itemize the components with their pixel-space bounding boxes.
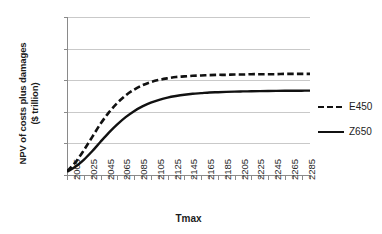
x-tick-mark-2005 (67, 176, 68, 180)
plot-area: 012345 200520252045206520852105212521452… (67, 17, 310, 175)
series-curves (67, 17, 310, 175)
x-tick-mark-2225 (251, 176, 252, 180)
x-axis-title: Tmax (67, 213, 310, 224)
chart-legend: E450 Z650 (318, 99, 382, 149)
series-line-e450 (67, 74, 310, 171)
legend-dashed-line-icon (318, 102, 344, 112)
x-tick-mark-2285 (302, 176, 303, 180)
x-tick-mark-2145 (184, 176, 185, 180)
chart-figure: NPV of costs plus damages ($ trillion) 0… (0, 0, 382, 234)
legend-label-z650: Z650 (349, 126, 372, 137)
x-tick-mark-2065 (117, 176, 118, 180)
legend-label-e450: E450 (349, 101, 372, 112)
legend-solid-line-icon (318, 127, 344, 137)
y-axis-title-line1: NPV of costs plus damages (17, 24, 29, 184)
x-tick-mark-2245 (268, 176, 269, 180)
series-line-z650 (67, 91, 310, 172)
x-tick-mark-2165 (201, 176, 202, 180)
x-tick-mark-2025 (84, 176, 85, 180)
y-axis-title: NPV of costs plus damages ($ trillion) (17, 24, 40, 184)
legend-item-z650: Z650 (318, 124, 382, 139)
x-tick-mark-2045 (101, 176, 102, 180)
x-tick-mark-2085 (134, 176, 135, 180)
legend-item-e450: E450 (318, 99, 382, 114)
x-tick-mark-2205 (235, 176, 236, 180)
x-tick-mark-2105 (151, 176, 152, 180)
x-tick-mark-2185 (218, 176, 219, 180)
x-tick-mark-2125 (168, 176, 169, 180)
y-axis-title-line2: ($ trillion) (28, 24, 40, 184)
x-tick-mark-2265 (285, 176, 286, 180)
